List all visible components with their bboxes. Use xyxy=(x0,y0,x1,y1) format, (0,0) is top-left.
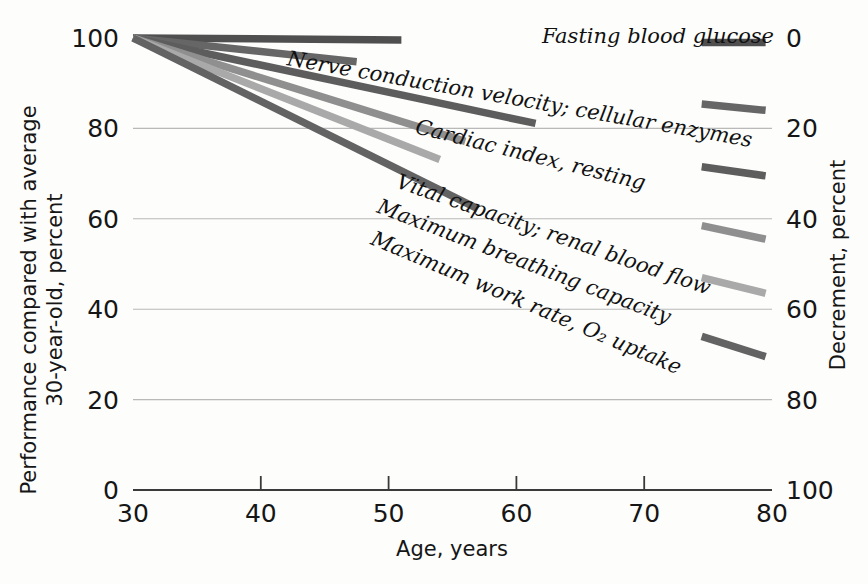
x-tick-label: 40 xyxy=(245,499,277,528)
x-tick-marks-group xyxy=(261,476,644,490)
x-tick-labels-group: 304050607080 xyxy=(117,499,788,528)
y-tick-label: 0 xyxy=(103,476,119,505)
series-stub[interactable] xyxy=(702,226,766,240)
aging-performance-line-chart: Fasting blood glucoseNerve conduction ve… xyxy=(0,0,868,584)
y-tick-label: 60 xyxy=(87,205,119,234)
series-label: Nerve conduction velocity; cellular enzy… xyxy=(285,46,755,152)
chart-container: Fasting blood glucoseNerve conduction ve… xyxy=(0,0,868,584)
x-tick-label: 60 xyxy=(500,499,532,528)
y-tick-label: 100 xyxy=(71,24,119,53)
y2-tick-label: 100 xyxy=(786,476,834,505)
y-tick-label: 20 xyxy=(87,386,119,415)
series-labels-group: Fasting blood glucoseNerve conduction ve… xyxy=(285,24,775,380)
y2-tick-label: 60 xyxy=(786,295,818,324)
y-tick-labels-group: 020406080100 xyxy=(71,24,119,505)
y2-tick-label: 20 xyxy=(786,114,818,143)
y-axis-title: Performance compared with average xyxy=(17,105,41,494)
series-stub[interactable] xyxy=(702,167,766,176)
series-label: Fasting blood glucose xyxy=(541,24,774,48)
y2-tick-label: 0 xyxy=(786,24,802,53)
x-tick-label: 70 xyxy=(628,499,660,528)
y2-tick-label: 80 xyxy=(786,386,818,415)
y-tick-label: 40 xyxy=(87,295,119,324)
y2-tick-label: 40 xyxy=(786,205,818,234)
series-stub[interactable] xyxy=(702,104,766,110)
y2-axis-title: Decrement, percent xyxy=(826,160,850,370)
x-tick-label: 30 xyxy=(117,499,149,528)
series-stub[interactable] xyxy=(702,336,766,356)
y-axis-title-line2: 30-year-old, percent xyxy=(43,193,67,406)
x-tick-label: 50 xyxy=(373,499,405,528)
y-tick-label: 80 xyxy=(87,114,119,143)
x-tick-label: 80 xyxy=(756,499,788,528)
x-axis-title: Age, years xyxy=(396,537,508,561)
